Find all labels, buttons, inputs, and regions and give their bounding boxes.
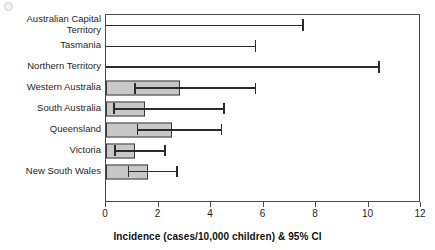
figure-container: Australian Capital TerritoryTasmaniaNort… [0, 0, 435, 250]
error-bar-upper-cap-western-australia [255, 83, 257, 94]
x-tick-mark-0 [105, 202, 106, 207]
y-axis-label-australian-capital-territory: Australian Capital Territory [0, 14, 101, 35]
scan-artifact-icon [4, 2, 13, 11]
x-tick-label-0: 0 [102, 208, 108, 220]
x-tick-mark-10 [368, 202, 369, 207]
error-bar-lower-cap-south-australia [113, 103, 115, 114]
x-tick-mark-4 [210, 202, 211, 207]
error-bar-lower-cap-victoria [114, 145, 116, 156]
error-bar-line-tasmania [106, 46, 256, 48]
x-tick-mark-8 [315, 202, 316, 207]
x-tick-label-4: 4 [207, 208, 213, 220]
error-bar-upper-cap-australian-capital-territory [302, 19, 304, 31]
x-tick-label-8: 8 [312, 208, 318, 220]
x-tick-mark-6 [263, 202, 264, 207]
x-axis-title: Incidence (cases/10,000 children) & 95% … [0, 231, 435, 242]
y-axis-label-south-australia: South Australia [0, 103, 101, 114]
x-tick-label-6: 6 [260, 208, 266, 220]
x-axis: 024681012 [105, 202, 420, 232]
y-axis-label-victoria: Victoria [0, 145, 101, 156]
error-bar-upper-cap-queensland [221, 124, 223, 135]
y-axis-label-western-australia: Western Australia [0, 82, 101, 93]
chart-row-northern-territory [106, 57, 419, 78]
error-bar-lower-cap-queensland [137, 124, 139, 135]
chart-row-south-australia [106, 99, 419, 120]
chart-row-queensland [106, 119, 419, 140]
y-axis-label-new-south-wales: New South Wales [0, 165, 101, 176]
error-bar-upper-cap-new-south-wales [176, 166, 178, 177]
error-bar-lower-cap-new-south-wales [128, 166, 130, 177]
x-tick-mark-2 [158, 202, 159, 207]
error-bar-upper-cap-victoria [164, 145, 166, 156]
y-axis-label-queensland: Queensland [0, 124, 101, 135]
chart-row-tasmania [106, 36, 419, 57]
error-bar-upper-cap-northern-territory [378, 61, 380, 73]
x-tick-label-12: 12 [414, 208, 425, 220]
error-bar-line-western-australia [135, 87, 256, 89]
error-bar-line-australian-capital-territory [106, 25, 303, 27]
error-bar-line-south-australia [114, 108, 224, 110]
chart-row-new-south-wales [106, 161, 419, 182]
error-bar-line-queensland [138, 129, 222, 131]
chart-row-australian-capital-territory [106, 15, 419, 36]
y-axis-label-group: Australian Capital TerritoryTasmaniaNort… [0, 14, 101, 202]
error-bar-line-victoria [115, 150, 165, 152]
chart-row-western-australia [106, 78, 419, 99]
chart-row-victoria [106, 140, 419, 161]
plot-area [105, 14, 420, 202]
x-tick-label-10: 10 [362, 208, 373, 220]
error-bar-lower-cap-western-australia [134, 83, 136, 94]
error-bar-line-new-south-wales [128, 171, 177, 173]
error-bar-upper-cap-tasmania [255, 40, 257, 52]
y-axis-label-tasmania: Tasmania [0, 40, 101, 51]
x-tick-mark-12 [420, 202, 421, 207]
error-bar-line-northern-territory [106, 66, 379, 68]
x-tick-label-2: 2 [155, 208, 161, 220]
y-axis-label-northern-territory: Northern Territory [0, 61, 101, 72]
error-bar-upper-cap-south-australia [223, 103, 225, 114]
